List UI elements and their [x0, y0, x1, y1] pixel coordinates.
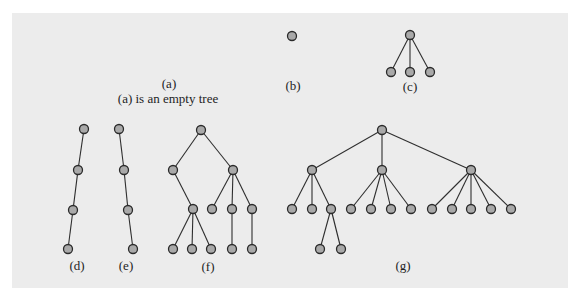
- tree-g-edge: [471, 170, 491, 209]
- tree-f-edge: [173, 170, 193, 209]
- tree-f-edge: [233, 170, 252, 209]
- tree-g-node: [387, 205, 396, 214]
- tree-g-node: [467, 166, 476, 175]
- tree-c-node: [426, 68, 435, 77]
- tree-g-edge: [351, 170, 382, 209]
- tree-g-node: [448, 205, 457, 214]
- tree-a-caption: (a) is an empty tree: [118, 91, 219, 106]
- tree-f-node: [197, 126, 206, 135]
- tree-e-node: [129, 245, 138, 254]
- tree-f-edge: [212, 170, 233, 209]
- tree-c-node: [406, 68, 415, 77]
- tree-e-label: (e): [119, 258, 133, 273]
- tree-e-edge: [119, 129, 124, 170]
- tree-g-node: [288, 205, 297, 214]
- tree-f-label: (f): [202, 259, 215, 274]
- tree-g-node: [487, 205, 496, 214]
- tree-f-node: [169, 245, 178, 254]
- tree-g-node: [327, 205, 336, 214]
- tree-g-node: [378, 126, 387, 135]
- tree-f-node: [228, 205, 237, 214]
- tree-c-edge: [410, 35, 430, 72]
- tree-c-node: [406, 31, 415, 40]
- tree-g-node: [347, 205, 356, 214]
- tree-g-node: [367, 205, 376, 214]
- tree-f-node: [248, 205, 257, 214]
- tree-d-node: [64, 245, 73, 254]
- tree-d-node: [69, 206, 78, 215]
- tree-e-node: [124, 206, 133, 215]
- tree-g-edge: [371, 170, 382, 209]
- tree-g-node: [467, 205, 476, 214]
- tree-f-node: [189, 205, 198, 214]
- tree-b-node: [288, 32, 297, 41]
- tree-g-edge: [292, 170, 312, 209]
- tree-e-node: [115, 125, 124, 134]
- tree-nodes: [64, 31, 516, 254]
- tree-d-label: (d): [69, 258, 84, 273]
- tree-g-edge: [331, 209, 341, 249]
- tree-g-node: [337, 245, 346, 254]
- tree-g-node: [308, 205, 317, 214]
- tree-b-label: (b): [285, 78, 300, 93]
- rooted-trees-diagram: (a) (a) is an empty tree (b) (c) (d) (e)…: [0, 0, 582, 300]
- tree-f-node: [188, 245, 197, 254]
- tree-f-edge: [193, 209, 211, 249]
- tree-f-edge: [173, 209, 193, 249]
- tree-f-edge: [192, 209, 193, 249]
- tree-d-edge: [68, 210, 73, 249]
- tree-f-edge: [232, 170, 233, 209]
- tree-c-edge: [391, 35, 410, 72]
- tree-edges: [68, 35, 511, 249]
- tree-f-edge: [173, 130, 201, 170]
- tree-a-label: (a): [162, 76, 176, 91]
- tree-g-edge: [452, 170, 471, 209]
- tree-d-edge: [78, 129, 84, 170]
- tree-d-node: [80, 125, 89, 134]
- tree-g-node: [428, 205, 437, 214]
- tree-c-node: [387, 68, 396, 77]
- tree-e-edge: [128, 210, 133, 249]
- tree-g-label: (g): [395, 258, 410, 273]
- tree-f-node: [169, 166, 178, 175]
- tree-g-edge: [471, 170, 511, 209]
- tree-d-edge: [73, 170, 78, 210]
- tree-e-edge: [124, 170, 128, 210]
- tree-g-edge: [320, 209, 331, 249]
- tree-f-node: [207, 245, 216, 254]
- tree-g-edge: [432, 170, 471, 209]
- tree-g-edge: [382, 130, 471, 170]
- tree-g-node: [316, 245, 325, 254]
- tree-e-node: [120, 166, 129, 175]
- tree-f-node: [208, 205, 217, 214]
- tree-g-edge: [312, 170, 331, 209]
- tree-c-label: (c): [403, 79, 417, 94]
- tree-f-node: [229, 166, 238, 175]
- tree-g-node: [407, 205, 416, 214]
- tree-d-node: [74, 166, 83, 175]
- tree-g-node: [507, 205, 516, 214]
- tree-f-node: [248, 245, 257, 254]
- tree-f-edge: [201, 130, 233, 170]
- tree-g-node: [378, 166, 387, 175]
- tree-f-node: [228, 245, 237, 254]
- tree-g-edge: [312, 130, 382, 170]
- tree-g-node: [308, 166, 317, 175]
